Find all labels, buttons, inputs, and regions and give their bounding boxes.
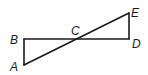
label-e: E [131,6,140,20]
label-b: B [10,33,18,47]
geometry-diagram: B A C D E [0,0,148,75]
label-d: D [132,37,141,51]
label-c: C [71,24,80,38]
label-a: A [9,60,18,74]
